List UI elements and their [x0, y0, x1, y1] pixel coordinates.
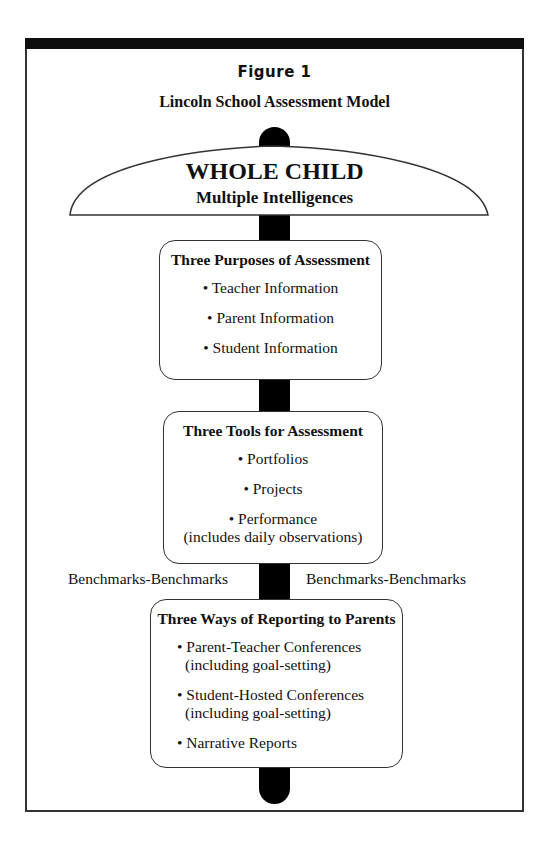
list-item: • Student-Hosted Conferences — [177, 686, 402, 704]
reporting-box: Three Ways of Reporting to Parents • Par… — [150, 599, 403, 768]
list-item-note: (including goal-setting) — [177, 704, 402, 722]
purposes-box: Three Purposes of Assessment • Teacher I… — [159, 240, 382, 380]
benchmarks-left: Benchmarks-Benchmarks — [68, 570, 228, 588]
list-item: • Projects — [164, 480, 382, 498]
list-item: • Teacher Information — [160, 279, 381, 297]
tools-box: Three Tools for Assessment • Portfolios … — [163, 411, 383, 564]
list-item: • Parent-Teacher Conferences — [177, 638, 402, 656]
list-item: • Parent Information — [160, 309, 381, 327]
box-title: Three Purposes of Assessment — [160, 251, 381, 269]
list-item: • Performance — [164, 510, 382, 528]
box-title: Three Tools for Assessment — [164, 422, 382, 440]
umbrella-subheading: Multiple Intelligences — [0, 188, 549, 208]
benchmarks-right: Benchmarks-Benchmarks — [306, 570, 466, 588]
list-item: • Portfolios — [164, 450, 382, 468]
list-item-note: (includes daily observations) — [164, 528, 382, 546]
umbrella-heading: WHOLE CHILD — [0, 158, 549, 185]
list-item-note: (including goal-setting) — [177, 656, 402, 674]
box-title: Three Ways of Reporting to Parents — [151, 610, 402, 628]
list-item: • Narrative Reports — [177, 734, 402, 752]
list-item: • Student Information — [160, 339, 381, 357]
